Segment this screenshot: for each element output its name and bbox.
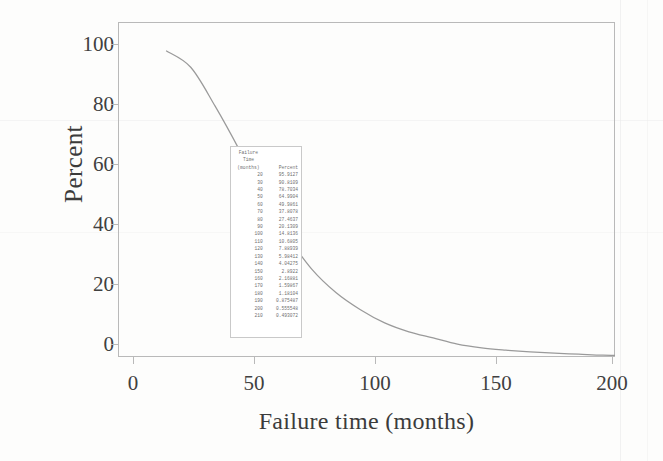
y-tick-label-0: 0 bbox=[62, 334, 114, 355]
cell-failure-time: 130 bbox=[234, 253, 263, 260]
cell-failure-time: 30 bbox=[234, 179, 263, 186]
cell-failure-time: 140 bbox=[234, 260, 263, 267]
table-row: 10014.8136 bbox=[234, 230, 298, 237]
x-tick-mark-150 bbox=[496, 357, 497, 364]
cell-percent: 10.6805 bbox=[263, 238, 298, 245]
cell-failure-time: 60 bbox=[234, 201, 263, 208]
cell-percent: 64.9904 bbox=[263, 193, 298, 200]
cell-percent: 2.8922 bbox=[263, 268, 298, 275]
cell-failure-time: 150 bbox=[234, 268, 263, 275]
y-tick-mark-0 bbox=[111, 344, 118, 345]
y-axis-title: Percent bbox=[60, 94, 88, 234]
x-tick-label-100: 100 bbox=[340, 372, 410, 394]
table-header-time: Time bbox=[234, 156, 263, 163]
table-header-spacer-2 bbox=[263, 156, 298, 163]
cell-percent: 7.88939 bbox=[263, 245, 298, 252]
cell-failure-time: 100 bbox=[234, 230, 263, 237]
x-tick-label-150: 150 bbox=[461, 372, 531, 394]
table-row: 6049.9861 bbox=[234, 201, 298, 208]
y-tick-label-20: 20 bbox=[62, 274, 114, 295]
x-axis-title: Failure time (months) bbox=[118, 408, 615, 435]
survival-curve-figure: 100 80 60 40 20 0 Percent 0 50 100 150 2… bbox=[0, 0, 663, 461]
cell-failure-time: 70 bbox=[234, 208, 263, 215]
table-row: 1305.98412 bbox=[234, 253, 298, 260]
cell-percent: 0.493072 bbox=[263, 312, 298, 319]
table-row: 2095.9127 bbox=[234, 171, 298, 178]
x-tick-mark-0 bbox=[133, 357, 134, 364]
cell-failure-time: 20 bbox=[234, 171, 263, 178]
cell-percent: 4.04275 bbox=[263, 260, 298, 267]
table-header-percent: Percent bbox=[263, 164, 298, 171]
cell-failure-time: 170 bbox=[234, 282, 263, 289]
table-row: 8027.4637 bbox=[234, 216, 298, 223]
cell-failure-time: 210 bbox=[234, 312, 263, 319]
cell-percent: 14.8136 bbox=[263, 230, 298, 237]
table-header-row-2: Time bbox=[234, 156, 298, 163]
table-header-row-3: (months) Percent bbox=[234, 164, 298, 171]
x-tick-mark-50 bbox=[254, 357, 255, 364]
table-row: 1207.88939 bbox=[234, 245, 298, 252]
cell-failure-time: 110 bbox=[234, 238, 263, 245]
table-row: 1404.04275 bbox=[234, 260, 298, 267]
inset-data-table: Failure Time (months) Percent 2095.91273… bbox=[230, 146, 302, 338]
cell-percent: 78.7034 bbox=[263, 186, 298, 193]
table-row: 1801.18104 bbox=[234, 290, 298, 297]
percent-vs-failure-time-curve bbox=[118, 22, 615, 357]
cell-percent: 37.8078 bbox=[263, 208, 298, 215]
y-tick-mark-40 bbox=[111, 224, 118, 225]
table-header-failure: Failure bbox=[234, 149, 263, 156]
table-row: 1900.875487 bbox=[234, 297, 298, 304]
y-tick-label-100: 100 bbox=[62, 34, 114, 55]
table-row: 7037.8078 bbox=[234, 208, 298, 215]
table-row: 5064.9904 bbox=[234, 193, 298, 200]
x-tick-mark-100 bbox=[375, 357, 376, 364]
table-row: 1701.59867 bbox=[234, 282, 298, 289]
cell-percent: 0.555548 bbox=[263, 305, 298, 312]
table-header-spacer-1 bbox=[263, 149, 298, 156]
table-row: 11010.6805 bbox=[234, 238, 298, 245]
cell-failure-time: 40 bbox=[234, 186, 263, 193]
cell-percent: 1.18104 bbox=[263, 290, 298, 297]
y-tick-mark-100 bbox=[111, 44, 118, 45]
table-row: 2000.555548 bbox=[234, 305, 298, 312]
table-row: 3090.8109 bbox=[234, 179, 298, 186]
x-tick-label-200: 200 bbox=[577, 372, 647, 394]
table-row: 9020.1309 bbox=[234, 223, 298, 230]
cell-failure-time: 200 bbox=[234, 305, 263, 312]
cell-failure-time: 80 bbox=[234, 216, 263, 223]
cell-failure-time: 180 bbox=[234, 290, 263, 297]
cell-percent: 49.9861 bbox=[263, 201, 298, 208]
cell-failure-time: 50 bbox=[234, 193, 263, 200]
cell-percent: 27.4637 bbox=[263, 216, 298, 223]
y-tick-mark-60 bbox=[111, 164, 118, 165]
cell-percent: 0.875487 bbox=[263, 297, 298, 304]
table-header-months: (months) bbox=[234, 164, 263, 171]
cell-percent: 1.59867 bbox=[263, 282, 298, 289]
x-tick-label-50: 50 bbox=[219, 372, 289, 394]
cell-failure-time: 120 bbox=[234, 245, 263, 252]
cell-percent: 5.98412 bbox=[263, 253, 298, 260]
cell-failure-time: 90 bbox=[234, 223, 263, 230]
cell-failure-time: 190 bbox=[234, 297, 263, 304]
table-row: 1602.16881 bbox=[234, 275, 298, 282]
table-header-row-1: Failure bbox=[234, 149, 298, 156]
table-row: 2100.493072 bbox=[234, 312, 298, 319]
table-row: 1502.8922 bbox=[234, 268, 298, 275]
y-tick-mark-80 bbox=[111, 104, 118, 105]
cell-percent: 2.16881 bbox=[263, 275, 298, 282]
x-tick-mark-200 bbox=[612, 357, 613, 364]
cell-failure-time: 160 bbox=[234, 275, 263, 282]
y-tick-mark-20 bbox=[111, 284, 118, 285]
x-tick-label-0: 0 bbox=[98, 372, 168, 394]
inset-table-grid: Failure Time (months) Percent 2095.91273… bbox=[234, 149, 298, 319]
table-row: 4078.7034 bbox=[234, 186, 298, 193]
cell-percent: 20.1309 bbox=[263, 223, 298, 230]
cell-percent: 90.8109 bbox=[263, 179, 298, 186]
cell-percent: 95.9127 bbox=[263, 171, 298, 178]
